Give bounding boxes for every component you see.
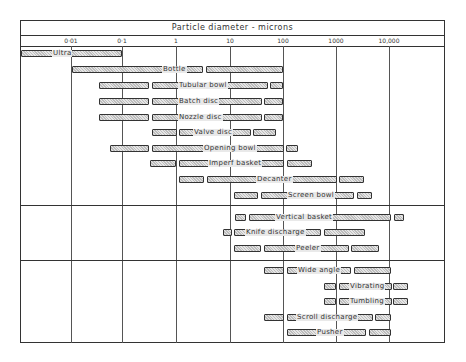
x-tick-label: 0·1	[117, 35, 127, 46]
bar-label: Opening bowl	[203, 145, 257, 152]
range-bar-segment	[99, 114, 149, 121]
range-bar-segment	[99, 98, 149, 105]
range-bar-segment	[393, 298, 408, 305]
bar-label: Nozzle disc	[178, 114, 223, 121]
range-bar-segment	[150, 160, 176, 167]
range-bar-segment	[152, 129, 177, 136]
gridline	[230, 46, 231, 343]
bar-label: Vibrating	[349, 283, 385, 290]
range-bar-segment	[99, 82, 149, 89]
bar-label: Scroll discharge	[296, 314, 358, 321]
range-bar-segment	[179, 176, 204, 183]
tick-row-divider	[20, 46, 445, 47]
range-bar-segment	[264, 114, 283, 121]
x-tick-label: 1000	[328, 35, 343, 46]
x-tick-label: 0·01	[64, 35, 77, 46]
x-tick-label: 10,000	[379, 35, 400, 46]
range-bar-segment	[351, 245, 379, 252]
range-bar-segment	[393, 283, 408, 290]
range-bar-segment	[324, 283, 336, 290]
bar-label: Valve disc	[193, 129, 233, 136]
particle-size-range-chart: Particle diameter - microns 0·010·111010…	[0, 0, 466, 362]
x-tick-label: 1	[174, 35, 178, 46]
range-bar-segment	[235, 214, 246, 221]
range-bar-segment	[369, 329, 391, 336]
range-bar-segment	[286, 145, 298, 152]
range-bar-segment	[375, 314, 391, 321]
bar-label: Tubular bowl	[178, 82, 228, 89]
bar-label: Bottle	[162, 66, 187, 73]
group-divider	[20, 205, 445, 206]
bar-label: Wide angle	[297, 267, 341, 274]
bar-label: Batch disc	[178, 98, 219, 105]
bar-label: Vertical basket	[275, 214, 333, 221]
range-bar-segment	[324, 298, 336, 305]
range-bar-segment	[357, 192, 372, 199]
gridline	[122, 46, 123, 343]
bar-label: Ultra	[52, 50, 72, 57]
range-bar-segment	[206, 66, 283, 73]
bar-label: Imperf basket	[208, 160, 262, 167]
range-bar-segment	[234, 245, 261, 252]
range-bar-segment	[223, 229, 232, 236]
bar-label: Decanter	[256, 176, 293, 183]
x-tick-label: 10	[226, 35, 234, 46]
chart-title: Particle diameter - microns	[20, 20, 445, 35]
range-bar-segment	[339, 176, 364, 183]
gridline	[71, 46, 72, 343]
bar-label: Tumbling	[349, 298, 385, 305]
range-bar-segment	[287, 160, 312, 167]
range-bar-segment	[253, 129, 276, 136]
range-bar-segment	[110, 145, 149, 152]
x-tick-label: 100	[277, 35, 288, 46]
range-bar-segment	[234, 192, 258, 199]
bar-label: Knife discharge	[245, 229, 306, 236]
range-bar-segment	[270, 82, 283, 89]
bar-label: Screen bowl	[287, 192, 335, 199]
group-divider	[20, 260, 445, 261]
range-bar-segment	[354, 267, 391, 274]
range-bar-segment	[264, 267, 284, 274]
range-bar-segment	[264, 314, 284, 321]
bar-label: Pusher	[316, 329, 344, 336]
bar-label: Peeler	[295, 245, 321, 252]
range-bar-segment	[264, 98, 283, 105]
gridline	[176, 46, 177, 343]
range-bar-segment	[324, 229, 365, 236]
range-bar-segment	[394, 214, 404, 221]
